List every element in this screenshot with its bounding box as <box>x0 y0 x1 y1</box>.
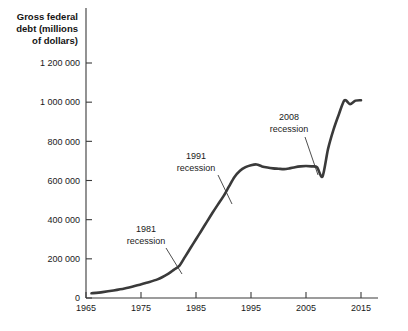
y-axis-title-line-2: debt (millions <box>16 23 78 34</box>
y-tick-label: 1 200 000 <box>40 58 80 68</box>
x-tick-label: 1965 <box>76 303 96 313</box>
y-tick-label: 800 000 <box>47 137 80 147</box>
y-axis-title-line-1: Gross federal <box>17 11 78 22</box>
annotation-recession-1981: 1981recession <box>127 224 182 274</box>
annotation-label-line: 1991 <box>186 151 206 161</box>
y-axis-ticks: 0200 000400 000600 000800 0001 000 0001 … <box>40 58 92 303</box>
debt-series-line <box>92 100 362 293</box>
annotation-leader-line <box>305 137 318 175</box>
y-tick-label: 400 000 <box>47 215 80 225</box>
chart-figure: Gross federal debt (millions of dollars)… <box>0 0 408 331</box>
x-tick-label: 1985 <box>186 303 206 313</box>
chart-annotations: 1981recession1991recession2008recession <box>127 112 318 274</box>
x-tick-label: 1975 <box>131 303 151 313</box>
y-tick-label: 600 000 <box>47 176 80 186</box>
chart-canvas: Gross federal debt (millions of dollars)… <box>0 0 408 331</box>
x-tick-label: 1995 <box>241 303 261 313</box>
x-tick-label: 2015 <box>351 303 371 313</box>
x-tick-label: 2005 <box>296 303 316 313</box>
annotation-label-line: recession <box>270 124 309 134</box>
x-axis-ticks: 196519751985199520052015 <box>76 292 371 313</box>
annotation-label-line: 1981 <box>136 224 156 234</box>
annotation-label-line: 2008 <box>279 112 299 122</box>
y-tick-label: 0 <box>75 293 80 303</box>
y-axis-title: Gross federal debt (millions of dollars) <box>16 11 78 46</box>
annotation-label-line: recession <box>127 236 166 246</box>
y-axis-title-line-3: of dollars) <box>32 35 78 46</box>
annotation-label-line: recession <box>177 163 216 173</box>
y-tick-label: 200 000 <box>47 254 80 264</box>
y-tick-label: 1 000 000 <box>40 97 80 107</box>
axes <box>86 8 378 298</box>
